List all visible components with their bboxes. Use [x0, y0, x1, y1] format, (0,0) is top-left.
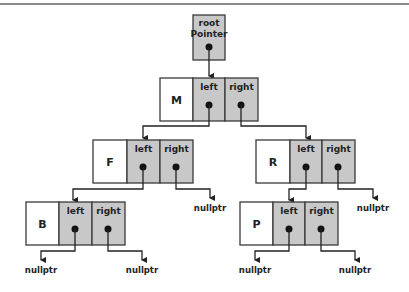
root-label-line2: Pointer	[190, 29, 228, 39]
null-label-b-left: nullptr	[25, 265, 58, 275]
node-m-key: M	[171, 94, 182, 107]
node-b-right-label: right	[96, 206, 121, 216]
root-label-line1: root	[198, 18, 220, 28]
node-m-left-label: left	[200, 82, 218, 92]
node-r-right-label: right	[326, 144, 351, 154]
node-p-key: P	[252, 218, 260, 231]
null-label-r-right: nullptr	[357, 203, 390, 213]
null-label-p-right: nullptr	[339, 265, 372, 275]
null-label-p-left: nullptr	[239, 265, 272, 275]
node-m-right-label: right	[229, 82, 254, 92]
node-f-right-label: right	[164, 144, 189, 154]
null-label-b-right: nullptr	[126, 265, 159, 275]
null-label-f-right: nullptr	[194, 203, 227, 213]
node-b-left-label: left	[67, 206, 85, 216]
node-p-right-label: right	[309, 206, 334, 216]
node-b-key: B	[38, 218, 46, 231]
node-r-key: R	[269, 156, 278, 169]
node-r-left-label: left	[297, 144, 315, 154]
bst-diagram: root Pointer M left right F left right n…	[0, 0, 409, 292]
node-f-key: F	[106, 156, 114, 169]
node-f-left-label: left	[135, 144, 153, 154]
node-p-left-label: left	[280, 206, 298, 216]
